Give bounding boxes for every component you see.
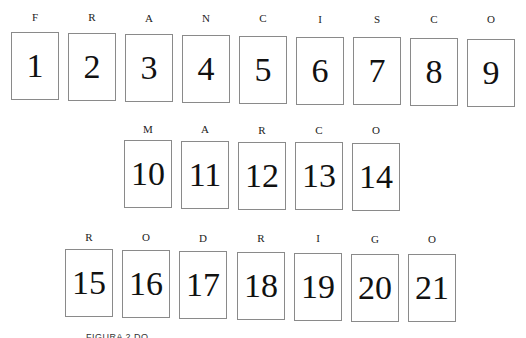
letter-label: R — [65, 231, 113, 243]
number-box: 17 — [179, 251, 227, 319]
number-box: 18 — [237, 252, 285, 320]
letter-label: O — [408, 233, 456, 245]
number-box: 20 — [351, 254, 399, 322]
cut-off-caption: FIGURA 2 DO RACIOCÍNIO — [86, 332, 196, 338]
letter-label: G — [351, 233, 399, 245]
number-box: 16 — [122, 250, 170, 318]
letter-label: O — [122, 231, 170, 243]
letter-label: I — [294, 232, 342, 244]
number-box: 19 — [294, 253, 342, 321]
letter-label: R — [237, 232, 285, 244]
number-box: 21 — [408, 254, 456, 322]
number-box: 15 — [65, 249, 113, 317]
letter-label: D — [179, 232, 227, 244]
